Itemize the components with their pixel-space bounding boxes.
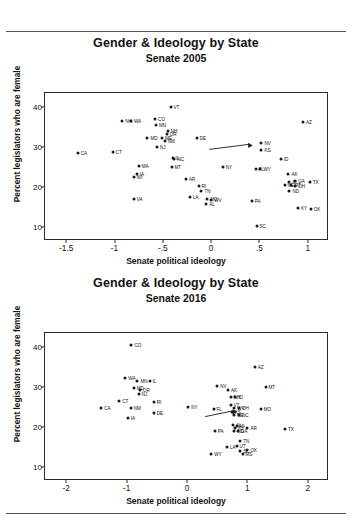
data-point [233, 430, 236, 433]
x-axis-label-2: Senate political ideology [0, 496, 352, 506]
data-point [279, 158, 282, 161]
y-axis-label-2: Percent legislators who are female [12, 294, 22, 454]
data-point-label: PA [218, 429, 224, 434]
y-tick-label: 30 [33, 383, 42, 392]
data-point [156, 145, 159, 148]
data-point-label: NM [134, 406, 141, 411]
data-point-label: TX [313, 180, 319, 185]
data-point [254, 168, 257, 171]
data-point [137, 393, 140, 396]
data-point [225, 446, 228, 449]
data-point-label: TX [288, 427, 294, 432]
data-point [111, 150, 114, 153]
figure-senate-2005: Gender & Ideology by State Senate 2005 P… [0, 36, 352, 270]
data-point [212, 407, 215, 410]
data-point-label: IA [131, 416, 135, 421]
data-point [205, 202, 208, 205]
data-point-label: NV [220, 383, 226, 388]
data-point-label: MN [140, 378, 147, 383]
data-point [121, 120, 124, 123]
chart-subtitle-1: Senate 2005 [0, 52, 352, 65]
data-point [308, 181, 311, 184]
y-tick-label: 20 [33, 423, 42, 432]
data-point [283, 428, 286, 431]
data-point [146, 136, 149, 139]
data-point-label: RI [157, 399, 162, 404]
data-point [130, 344, 133, 347]
annotation-arrow [45, 93, 329, 241]
data-point-label: DE [200, 136, 206, 141]
data-point [152, 412, 155, 415]
x-tick-label: -.5 [158, 243, 168, 253]
data-point-label: LA [193, 194, 199, 199]
data-point [173, 158, 176, 161]
data-point-label: AR [250, 425, 256, 430]
plot-area-2: Percent legislators who are female 10203… [0, 305, 352, 501]
data-point [210, 452, 213, 455]
data-point-label: AL [209, 201, 215, 206]
data-point-label: NC [177, 157, 184, 162]
data-point-label: FL [217, 406, 222, 411]
data-point-label: CA [81, 150, 87, 155]
data-point-label: MN [159, 122, 166, 127]
y-tick-label: 20 [33, 183, 42, 192]
data-point-label: AR [189, 177, 195, 182]
x-tick-label: -2 [62, 483, 69, 493]
data-point [132, 386, 135, 389]
data-point [124, 376, 127, 379]
data-point [239, 440, 242, 443]
data-point-label: CT [122, 399, 128, 404]
y-tick-label: 10 [33, 223, 42, 232]
data-point [197, 184, 200, 187]
data-point [290, 183, 293, 186]
bottom-divider [6, 513, 346, 514]
data-point [255, 224, 258, 227]
data-point-label: MS [246, 452, 253, 457]
data-point-label: MO [264, 407, 271, 412]
data-point [288, 189, 291, 192]
data-point-label: AK [231, 387, 237, 392]
data-point [195, 137, 198, 140]
data-point [135, 172, 138, 175]
data-point [229, 404, 232, 407]
data-point [231, 423, 234, 426]
data-point [213, 430, 216, 433]
figure-senate-2016: Gender & Ideology by State Senate 2016 P… [0, 276, 352, 510]
data-point-label: MT [269, 385, 276, 390]
data-point-label: ID [284, 157, 289, 162]
data-point [188, 195, 191, 198]
y-tick-label: 40 [33, 343, 42, 352]
x-tick-label: 0 [209, 243, 214, 253]
data-point [129, 120, 132, 123]
data-point [297, 206, 300, 209]
data-point [170, 166, 173, 169]
data-point-label: NV [264, 141, 270, 146]
data-point-label: WY [214, 451, 221, 456]
chart-subtitle-2: Senate 2016 [0, 292, 352, 305]
data-point [185, 178, 188, 181]
top-divider [6, 31, 346, 32]
data-point-label: WA [128, 375, 135, 380]
data-point-label: DE [157, 411, 163, 416]
data-point [126, 417, 129, 420]
data-point [155, 123, 158, 126]
y-tick-label: 10 [33, 463, 42, 472]
data-point [250, 199, 253, 202]
data-point [76, 151, 79, 154]
data-point-label: VT [174, 105, 180, 110]
x-tick-label: 0 [185, 483, 190, 493]
data-point [259, 408, 262, 411]
data-point-label: SC [260, 223, 266, 228]
data-point-label: ID [238, 395, 243, 400]
data-point-label: AZ [258, 365, 264, 370]
data-point-label: NY [191, 405, 197, 410]
x-axis-label-1: Senate political ideology [0, 256, 352, 266]
data-point [206, 198, 209, 201]
data-point-label: VA [137, 197, 143, 202]
data-point [241, 453, 244, 456]
y-axis-label-1: Percent legislators who are female [12, 54, 22, 214]
data-point [301, 120, 304, 123]
data-point-label: WA [134, 119, 141, 124]
data-point [148, 380, 151, 383]
data-point [283, 184, 286, 187]
